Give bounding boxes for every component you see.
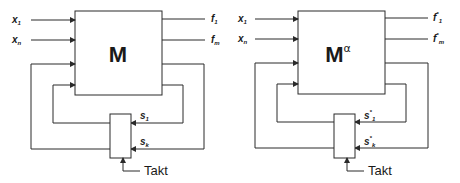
left-state-sk-label: sk	[140, 136, 150, 148]
left-output-f1-label: f1	[211, 13, 218, 25]
left-clock-arrow	[123, 158, 140, 171]
right-clock-label: Takt	[368, 163, 392, 178]
right-state-s1-label: s*1	[364, 109, 376, 122]
right-automaton: Mα x1 xn f*1 f*m s*1 s*k Takt	[237, 11, 445, 178]
automaton-diagrams: M x1 xn f1 fm s1 sk Takt Mα x1 xn	[0, 0, 460, 183]
right-output-fm-label: f*m	[433, 32, 445, 45]
left-input-xn-label: xn	[11, 34, 22, 46]
right-input-x1-label: x1	[237, 13, 248, 25]
left-input-x1-label: x1	[11, 14, 22, 26]
left-automaton: M x1 xn f1 fm s1 sk Takt	[11, 11, 220, 178]
right-output-f1-label: f*1	[433, 11, 443, 24]
left-state-s1-label: s1	[140, 110, 150, 122]
left-output-fm-label: fm	[211, 34, 220, 46]
right-state-sk-label: s*k	[364, 135, 376, 148]
left-clock-label: Takt	[144, 163, 168, 178]
right-input-xn-label: xn	[237, 33, 248, 45]
right-state-register	[334, 114, 355, 158]
right-clock-arrow	[347, 158, 364, 171]
left-state-register	[110, 114, 131, 158]
left-block-label: M	[109, 42, 127, 67]
